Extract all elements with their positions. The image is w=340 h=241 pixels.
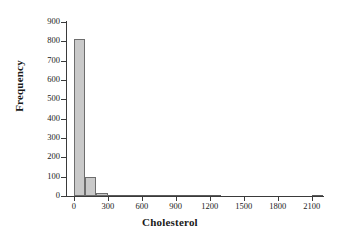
x-tick-label: 0 (57, 201, 91, 211)
histogram-chart: Frequency 0100200300400500600700800900 0… (0, 0, 340, 241)
x-tick-label: 1800 (261, 201, 295, 211)
y-tick (61, 22, 66, 23)
y-tick-label: 100 (34, 172, 60, 181)
histogram-bar (85, 177, 96, 196)
y-tick-label: 900 (34, 17, 60, 26)
y-tick (61, 157, 66, 158)
y-tick (61, 196, 66, 197)
histogram-bar (74, 39, 85, 196)
y-tick-label: 800 (34, 36, 60, 45)
y-tick (61, 177, 66, 178)
y-tick-label: 300 (34, 133, 60, 142)
histogram-bar (210, 195, 221, 196)
y-axis-title: Frequency (13, 41, 25, 131)
histogram-bar (96, 193, 107, 196)
x-tick-label: 1200 (193, 201, 227, 211)
y-tick-label: 0 (34, 191, 60, 200)
histogram-bar (130, 195, 141, 196)
histogram-bar (119, 195, 130, 196)
histogram-bar (153, 195, 164, 196)
histogram-bar (176, 195, 187, 196)
y-tick (61, 99, 66, 100)
histogram-bar (108, 195, 119, 196)
y-tick (61, 61, 66, 62)
x-axis-line (66, 196, 324, 197)
x-tick-label: 1500 (227, 201, 261, 211)
y-tick (61, 41, 66, 42)
y-tick (61, 80, 66, 81)
x-tick-label: 300 (91, 201, 125, 211)
y-tick (61, 119, 66, 120)
histogram-bar (142, 195, 153, 196)
y-tick (61, 138, 66, 139)
x-tick-label: 600 (125, 201, 159, 211)
y-tick-label: 700 (34, 56, 60, 65)
histogram-bar (312, 195, 323, 196)
y-tick-label: 600 (34, 75, 60, 84)
histogram-bar (187, 195, 198, 196)
x-tick-label: 2100 (295, 201, 329, 211)
y-tick-label: 500 (34, 94, 60, 103)
x-axis-title: Cholesterol (0, 216, 340, 228)
x-tick-label: 900 (159, 201, 193, 211)
y-tick-label: 200 (34, 152, 60, 161)
histogram-bar (198, 195, 209, 196)
y-tick-label: 400 (34, 114, 60, 123)
plot-area (67, 22, 323, 196)
histogram-bar (164, 195, 175, 196)
